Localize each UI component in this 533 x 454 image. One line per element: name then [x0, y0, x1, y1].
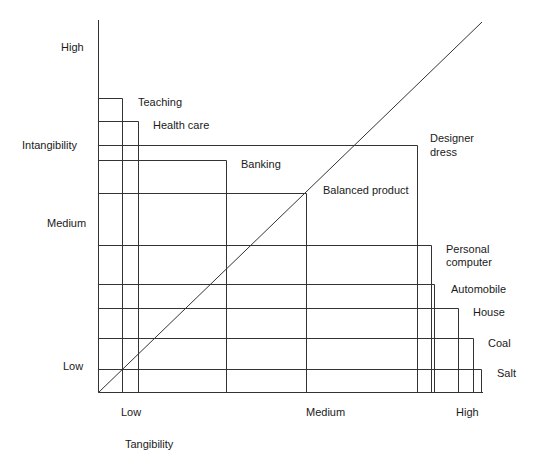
y-tick-high: High [61, 41, 84, 54]
label-balanced-product: Balanced product [323, 184, 409, 197]
label-house: House [473, 306, 505, 319]
y-axis-label: Intangibility [22, 139, 77, 152]
box-health-care [99, 122, 139, 393]
label-coal: Coal [488, 337, 511, 350]
box-house [99, 309, 459, 393]
x-axis-label: Tangibility [125, 438, 173, 451]
x-tick-medium: Medium [306, 406, 345, 419]
box-designer-dress [99, 146, 418, 393]
x-tick-high: High [456, 406, 479, 419]
label-banking: Banking [241, 158, 281, 171]
balance-diagonal [99, 22, 483, 393]
label-designer-dress-line2: dress [430, 146, 457, 159]
box-banking [99, 161, 227, 393]
label-personal-computer-line2: computer [446, 256, 492, 269]
box-personal-computer [99, 246, 432, 393]
label-automobile: Automobile [451, 283, 506, 296]
label-designer-dress-line1: Designer [430, 132, 474, 145]
label-salt: Salt [497, 367, 516, 380]
x-tick-low: Low [121, 406, 141, 419]
label-health-care: Health care [153, 119, 209, 132]
box-salt [99, 370, 482, 393]
y-tick-low: Low [63, 360, 83, 373]
label-teaching: Teaching [138, 96, 182, 109]
label-personal-computer-line1: Personal [446, 243, 489, 256]
y-tick-medium: Medium [47, 217, 86, 230]
